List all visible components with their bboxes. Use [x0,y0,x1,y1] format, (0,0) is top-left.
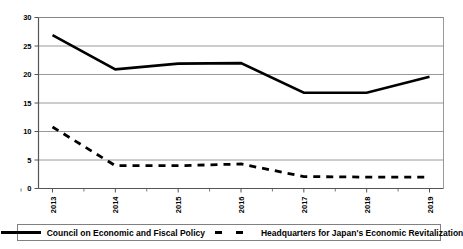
x-axis-ticks-group [21,189,460,193]
x-tick-label-2019: 2019 [426,197,435,214]
x-tick-label-2015: 2015 [174,197,183,214]
legend-label-headquarters: Headquarters for Japan's Economic Revita… [261,228,463,238]
x-tick-label-2018: 2018 [363,197,372,214]
series-line-headquarters [53,127,430,177]
x-tick-label-2014: 2014 [111,196,120,214]
legend-entry-headquarters: Headquarters for Japan's Economic Revita… [205,228,463,238]
y-axis-tick-labels: 051015202530 [23,13,31,193]
x-tick-label-2017: 2017 [300,197,309,214]
x-tick-label-2016: 2016 [237,197,246,214]
y-tick-label-30: 30 [23,13,31,22]
chart-legend: Council on Economic and Fiscal Policy He… [17,224,441,241]
y-tick-label-5: 5 [27,156,31,165]
solid-line-swatch-icon [1,231,41,234]
series-line-council [53,35,430,93]
y-tick-label-20: 20 [23,70,31,79]
data-series-group [53,35,430,177]
y-tick-label-25: 25 [23,42,31,51]
dashed-line-swatch-icon [215,231,255,234]
y-tick-label-0: 0 [27,184,31,193]
legend-entry-council: Council on Economic and Fiscal Policy [0,228,205,238]
x-axis-tick-labels: 2013201420152016201720182019 [49,196,435,214]
x-tick-label-2013: 2013 [49,197,58,214]
y-tick-label-15: 15 [23,99,31,108]
legend-label-council: Council on Economic and Fiscal Policy [47,228,205,238]
y-tick-label-10: 10 [23,127,31,136]
